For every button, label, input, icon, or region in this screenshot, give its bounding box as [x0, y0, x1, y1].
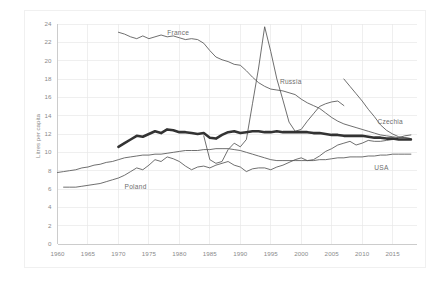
x-tick-label: 2010 — [347, 250, 377, 257]
series-line-poland — [64, 135, 411, 187]
series-line-czechia — [344, 79, 411, 139]
y-tick-label: 0 — [24, 240, 52, 247]
series-line-russia — [204, 27, 344, 164]
series-line-germany — [118, 129, 410, 146]
y-tick-label: 24 — [24, 20, 52, 27]
x-tick-label: 2000 — [286, 250, 316, 257]
series-lines — [58, 27, 411, 187]
series-line-france — [118, 32, 410, 138]
y-tick-label: 6 — [24, 185, 52, 192]
x-tick-label: 1960 — [43, 250, 73, 257]
y-tick-label: 8 — [24, 167, 52, 174]
gridlines — [58, 24, 418, 244]
chart-container: 024681012141618202224 196019651970197519… — [0, 0, 443, 281]
y-tick-label: 16 — [24, 93, 52, 100]
x-tick-label: 2015 — [378, 250, 408, 257]
y-tick-label: 4 — [24, 203, 52, 210]
x-tick-label: 2005 — [317, 250, 347, 257]
y-tick-label: 22 — [24, 38, 52, 45]
y-tick-label: 18 — [24, 75, 52, 82]
x-tick-label: 1990 — [225, 250, 255, 257]
series-label-poland: Poland — [125, 183, 147, 190]
x-tick-label: 1970 — [103, 250, 133, 257]
series-label-usa: USA — [374, 164, 388, 171]
x-tick-label: 1985 — [195, 250, 225, 257]
x-tick-label: 1965 — [73, 250, 103, 257]
y-tick-label: 20 — [24, 57, 52, 64]
x-tick-label: 1980 — [164, 250, 194, 257]
series-label-france: France — [167, 29, 189, 36]
y-axis-title: Litres per capita — [34, 114, 41, 158]
line-chart-plot — [0, 0, 443, 281]
series-label-russia: Russia — [280, 78, 302, 85]
series-label-czechia: Czechia — [377, 118, 403, 125]
x-tick-label: 1975 — [134, 250, 164, 257]
x-tick-label: 1995 — [256, 250, 286, 257]
y-tick-label: 2 — [24, 222, 52, 229]
